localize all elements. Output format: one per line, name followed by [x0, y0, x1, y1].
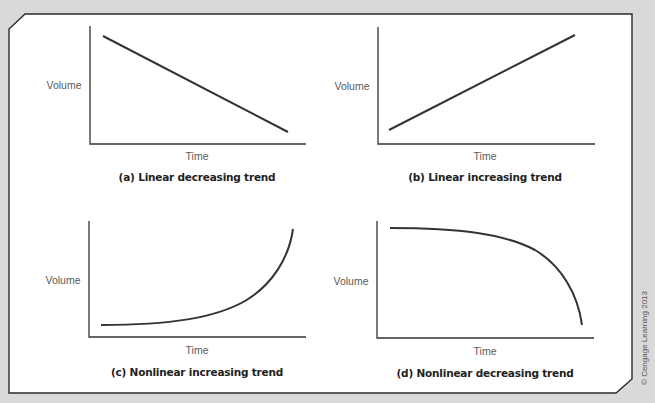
panel-d-caption: (d) Nonlinear decreasing trend — [396, 367, 573, 379]
panel-b-xlabel: Time — [474, 150, 497, 162]
panel-d-ylabel: Volume — [333, 275, 368, 287]
panel-d-xlabel: Time — [474, 345, 497, 357]
figure-canvas — [0, 0, 655, 403]
panel-c-ylabel: Volume — [45, 274, 80, 286]
panel-a-xlabel: Time — [186, 150, 209, 162]
panel-c-xlabel: Time — [186, 344, 209, 356]
panel-a-caption: (a) Linear decreasing trend — [119, 171, 276, 183]
panel-b-caption: (b) Linear increasing trend — [408, 171, 562, 183]
figure-frame — [9, 14, 632, 393]
panel-b-ylabel: Volume — [334, 80, 369, 92]
copyright-notice: © Cengage Learning 2013 — [640, 291, 649, 385]
panel-a-ylabel: Volume — [46, 79, 81, 91]
panel-c-caption: (c) Nonlinear increasing trend — [111, 366, 283, 378]
